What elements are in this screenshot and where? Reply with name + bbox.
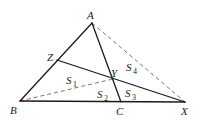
triangle-diagram: A B C X Y Z S 1 S 2 S 3 S 4 [0, 0, 201, 122]
label-x: X [180, 105, 189, 117]
label-c: C [116, 105, 124, 117]
region-s3: S 3 [125, 87, 136, 102]
svg-text:3: 3 [132, 93, 136, 102]
label-a: A [86, 9, 94, 21]
svg-text:4: 4 [133, 67, 137, 76]
region-s2: S 2 [97, 88, 108, 103]
svg-text:S: S [125, 87, 131, 99]
region-s4: S 4 [126, 61, 137, 76]
label-z: Z [47, 51, 54, 63]
svg-text:S: S [126, 61, 132, 73]
svg-text:1: 1 [73, 80, 77, 89]
label-b: B [10, 104, 17, 116]
segment-bx [20, 101, 185, 102]
segment-ab [20, 23, 92, 101]
svg-text:S: S [66, 74, 72, 86]
label-y: Y [111, 67, 119, 79]
svg-text:2: 2 [104, 94, 108, 103]
region-s1: S 1 [66, 74, 77, 89]
svg-text:S: S [97, 88, 103, 100]
